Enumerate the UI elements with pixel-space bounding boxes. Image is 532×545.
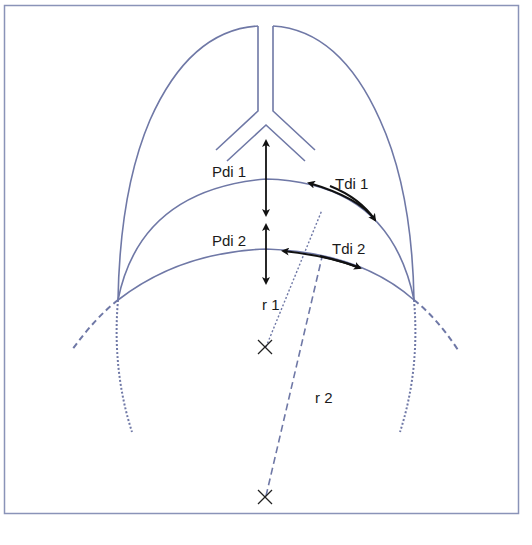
center-mark-1: [258, 340, 272, 354]
center-mark-2: [258, 490, 272, 504]
circle-extension-1-right: [400, 300, 415, 432]
label-r1: r 1: [262, 296, 280, 313]
radius-r1: [266, 210, 322, 347]
label-r2: r 2: [315, 389, 333, 406]
circle-extension-2-right: [414, 300, 458, 350]
frame: [5, 6, 519, 514]
circle-extension-2-left: [72, 300, 118, 350]
label-tdi1: Tdi 1: [335, 175, 368, 192]
circle-extension-1-left: [117, 300, 132, 432]
label-tdi2: Tdi 2: [332, 240, 365, 257]
diaphragm-diagram: Pdi 1 Pdi 2 Tdi 1 Tdi 2 r 1 r 2: [0, 0, 532, 545]
label-pdi1: Pdi 1: [212, 163, 246, 180]
radius-r2: [266, 257, 322, 496]
label-pdi2: Pdi 2: [212, 232, 246, 249]
